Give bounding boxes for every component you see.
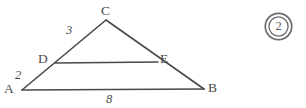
geometry-figure: C D E A B 3 2 8 2 bbox=[0, 0, 306, 108]
length-label-dc: 3 bbox=[66, 24, 72, 37]
vertex-label-d: D bbox=[38, 52, 48, 66]
vertex-label-c: C bbox=[101, 4, 110, 18]
vertex-label-e: E bbox=[160, 52, 168, 66]
midsegment-de bbox=[55, 62, 158, 63]
side-segment-cb bbox=[106, 20, 204, 89]
base-segment-ab bbox=[22, 89, 204, 90]
circled-number-label: 2 bbox=[264, 12, 293, 41]
side-segment-ac bbox=[22, 20, 106, 90]
length-label-ad: 2 bbox=[15, 69, 21, 82]
vertex-label-a: A bbox=[4, 82, 14, 96]
length-label-ab: 8 bbox=[106, 93, 112, 106]
vertex-label-b: B bbox=[208, 81, 217, 95]
